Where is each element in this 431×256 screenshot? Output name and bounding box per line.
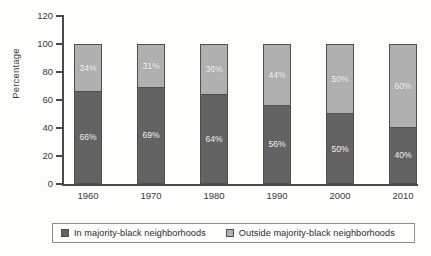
bar-value-label-outside: 34% (80, 63, 97, 73)
bar-value-label-in: 66% (80, 132, 97, 142)
x-axis-tick-label-1980: 1980 (184, 190, 244, 201)
y-axis-tick-label: 0 (26, 179, 53, 189)
y-axis-tick (56, 127, 62, 128)
x-axis-tick-label-2010: 2010 (373, 190, 431, 201)
bar-value-label-in: 56% (269, 139, 286, 149)
bar-segment-outside-1980[interactable]: 36% (201, 45, 227, 95)
bar-segment-in-1990[interactable]: 56% (264, 106, 290, 183)
bar-segment-outside-1970[interactable]: 31% (138, 45, 164, 88)
x-axis-tick-label-1970: 1970 (121, 190, 181, 201)
bar-segment-outside-1990[interactable]: 44% (264, 45, 290, 106)
bar-2010[interactable]: 60%40% (389, 44, 417, 184)
stacked-bar-chart: Percentage 020406080100120 34%66%31%69%3… (0, 0, 431, 256)
bar-segment-in-2000[interactable]: 50% (327, 114, 353, 183)
legend-item-outside-majority-black: Outside majority-black neighborhoods (226, 228, 395, 238)
bar-segment-in-1980[interactable]: 64% (201, 95, 227, 183)
bar-value-label-outside: 50% (332, 74, 349, 84)
x-axis-tick-label-1960: 1960 (58, 190, 118, 201)
y-axis-tick (56, 99, 62, 100)
bar-segment-outside-2010[interactable]: 60% (390, 45, 416, 128)
bar-segment-in-2010[interactable]: 40% (390, 128, 416, 183)
bar-2000[interactable]: 50%50% (326, 44, 354, 184)
legend-label-outside: Outside majority-black neighborhoods (239, 228, 395, 238)
y-axis-tick (56, 155, 62, 156)
bar-segment-in-1960[interactable]: 66% (75, 92, 101, 183)
legend-item-in-majority-black: In majority-black neighborhoods (61, 228, 206, 238)
bar-value-label-in: 40% (395, 150, 412, 160)
bar-value-label-in: 64% (206, 134, 223, 144)
bar-value-label-outside: 31% (143, 61, 160, 71)
y-axis-tick-label: 20 (26, 151, 53, 161)
y-axis-line (62, 15, 64, 185)
y-axis-tick (56, 43, 62, 44)
y-axis-tick-label: 100 (26, 39, 53, 49)
bar-value-label-outside: 60% (395, 81, 412, 91)
y-axis-tick-label: 60 (26, 95, 53, 105)
bar-1970[interactable]: 31%69% (137, 44, 165, 184)
y-axis-tick (56, 71, 62, 72)
y-axis-tick (56, 15, 62, 16)
bar-value-label-in: 69% (143, 130, 160, 140)
y-axis-tick (56, 183, 62, 184)
x-axis-tick-label-1990: 1990 (247, 190, 307, 201)
legend-swatch-icon-outside (226, 229, 234, 237)
bar-1980[interactable]: 36%64% (200, 44, 228, 184)
chart-legend: In majority-black neighborhoods Outside … (52, 223, 415, 243)
bar-value-label-outside: 44% (269, 70, 286, 80)
bar-segment-outside-2000[interactable]: 50% (327, 45, 353, 114)
x-axis-line (62, 184, 418, 186)
bar-value-label-in: 50% (332, 144, 349, 154)
legend-swatch-icon-in (61, 229, 69, 237)
bar-segment-in-1970[interactable]: 69% (138, 88, 164, 183)
y-axis-title: Percentage (10, 34, 21, 114)
y-axis-tick-label: 40 (26, 123, 53, 133)
bar-value-label-outside: 36% (206, 64, 223, 74)
legend-label-in: In majority-black neighborhoods (74, 228, 206, 238)
bar-1960[interactable]: 34%66% (74, 44, 102, 184)
x-axis-tick-label-2000: 2000 (310, 190, 370, 201)
bar-1990[interactable]: 44%56% (263, 44, 291, 184)
y-axis-tick-label: 80 (26, 67, 53, 77)
y-axis-tick-label: 120 (26, 11, 53, 21)
bar-segment-outside-1960[interactable]: 34% (75, 45, 101, 92)
